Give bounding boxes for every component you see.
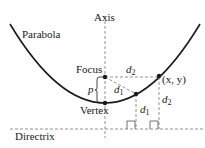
right-angle-marker-d2 <box>150 121 158 129</box>
p-brace <box>95 77 103 103</box>
parabola-diagram: Axis Parabola Focus Vertex Directrix (x,… <box>0 0 205 148</box>
d1-point <box>134 92 138 96</box>
d2-vertical-label: d2 <box>162 93 172 107</box>
right-angle-marker-d1 <box>127 121 135 129</box>
p-label: p <box>87 83 94 95</box>
point-label: (x, y) <box>162 73 186 86</box>
d2-top-label: d2 <box>126 63 136 77</box>
focus-label: Focus <box>76 63 102 75</box>
parabola-label: Parabola <box>22 28 61 40</box>
axis-label: Axis <box>94 11 115 23</box>
directrix-label: Directrix <box>15 130 55 142</box>
d1-vertical-label: d1 <box>140 103 150 117</box>
vertex-label: Vertex <box>80 104 109 116</box>
xy-point <box>157 74 161 78</box>
focus-point <box>103 75 107 79</box>
d1-diagonal-label: d1 <box>114 83 124 97</box>
